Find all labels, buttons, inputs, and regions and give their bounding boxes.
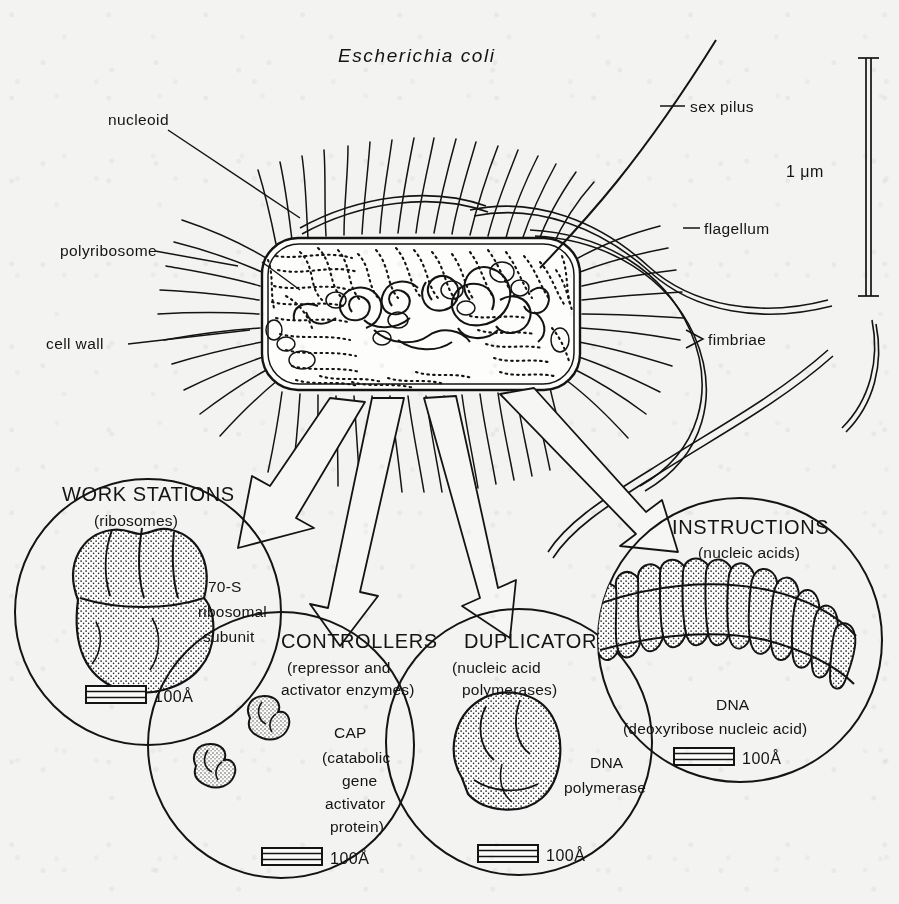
label-fimbriae: fimbriae	[708, 331, 766, 348]
figure-title: Escherichia coli	[338, 45, 496, 66]
work-stations-heading: WORK STATIONS	[62, 483, 235, 505]
ribosome-specimen-icon	[73, 528, 213, 693]
duplicators-sub-line-1: polymerases)	[462, 681, 557, 698]
bacterial-cell-body	[262, 238, 580, 390]
label-cell-wall: cell wall	[46, 335, 104, 352]
label-nucleoid: nucleoid	[108, 111, 169, 128]
controllers-sub-line-0: (repressor and	[287, 659, 391, 676]
controllers-scale-label: 100Å	[330, 849, 369, 867]
instructions-heading: INSTRUCTIONS	[672, 516, 829, 538]
controllers-spec-line-0: CAP	[334, 724, 366, 741]
duplicators-scale-label: 100Å	[546, 846, 585, 864]
controllers-spec-line-4: protein)	[330, 818, 384, 835]
callout-work-stations[interactable]: WORK STATIONS (ribosomes) 70-S ribosomal…	[15, 479, 281, 745]
arrow-duplicators	[424, 396, 516, 638]
label-micron-scale: 1 μm	[786, 163, 824, 180]
instructions-scale-label: 100Å	[742, 749, 781, 767]
cell-wall-leader	[128, 330, 250, 344]
label-flagellum: flagellum	[704, 220, 770, 237]
instructions-scale-bar-icon	[674, 748, 734, 765]
work-stations-spec-line-0: 70-S	[208, 578, 242, 595]
label-polyribosome: polyribosome	[60, 242, 157, 259]
figure-canvas: WORK STATIONS (ribosomes) 70-S ribosomal…	[0, 0, 899, 904]
micron-scale-bar	[858, 58, 879, 296]
controllers-spec-line-2: gene	[342, 772, 377, 789]
duplicators-heading: DUPLICATORS	[464, 630, 611, 652]
duplicators-scale-bar-icon	[478, 845, 538, 862]
instructions-subheading: (nucleic acids)	[698, 544, 800, 561]
work-stations-spec-line-1: ribosomal	[198, 603, 267, 620]
cap-protein-specimen-icon	[194, 696, 289, 788]
nucleoid-leader	[168, 130, 300, 218]
duplicators-spec-line-0: DNA	[590, 754, 624, 771]
dna-polymerase-specimen-icon	[454, 693, 561, 810]
controllers-scale-bar-icon	[262, 848, 322, 865]
controllers-heading: CONTROLLERS	[281, 630, 438, 652]
polyribosome-leader	[155, 251, 238, 266]
controllers-spec-line-1: (catabolic	[322, 749, 390, 766]
escherichia-coli-diagram: WORK STATIONS (ribosomes) 70-S ribosomal…	[0, 0, 899, 904]
duplicators-sub-line-0: (nucleic acid	[452, 659, 541, 676]
callout-instructions[interactable]: INSTRUCTIONS (nucleic acids) DNA (deoxyr…	[597, 498, 882, 782]
dna-helix-specimen-icon	[597, 559, 856, 689]
instructions-spec-line-1: (deoxyribose nucleic acid)	[623, 720, 807, 737]
fimbriae-bracket	[686, 330, 703, 348]
duplicators-spec-line-1: polymerase	[564, 779, 646, 796]
instructions-spec-line-0: DNA	[716, 696, 750, 713]
work-stations-spec-line-2: subunit	[203, 628, 255, 645]
label-sex-pilus: sex pilus	[690, 98, 754, 115]
controllers-spec-line-3: activator	[325, 795, 385, 812]
work-stations-scale-bar-icon	[86, 686, 146, 703]
work-stations-subheading: (ribosomes)	[94, 512, 178, 529]
